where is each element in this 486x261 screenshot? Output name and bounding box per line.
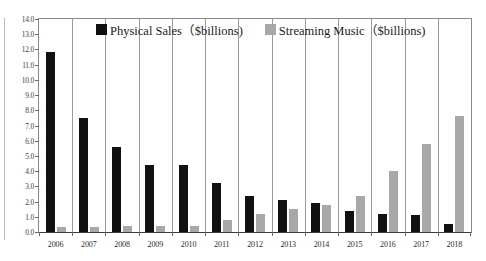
x-axis-label-2011: 2011	[214, 240, 229, 249]
x-axis-label-2016: 2016	[380, 240, 396, 249]
bar-streaming-music-2007	[90, 227, 99, 232]
bar-group	[378, 19, 398, 232]
y-tick-mark	[35, 141, 39, 142]
y-tick-mark	[35, 217, 39, 218]
bar-physical-sales-2018	[444, 224, 453, 232]
y-axis-label: 2.0	[25, 197, 34, 206]
y-axis-label: 13.0	[22, 30, 34, 39]
bar-streaming-music-2011	[223, 220, 232, 232]
bar-physical-sales-2006	[46, 52, 55, 232]
gridline-vertical	[172, 19, 173, 232]
bar-streaming-music-2015	[356, 196, 365, 233]
bar-streaming-music-2013	[289, 209, 298, 232]
gridline-vertical	[139, 19, 140, 232]
bar-streaming-music-2018	[455, 116, 464, 232]
x-axis-label-2017: 2017	[413, 240, 429, 249]
y-tick-mark	[35, 186, 39, 187]
x-axis-label-2015: 2015	[347, 240, 363, 249]
y-axis-label: 4.0	[25, 167, 34, 176]
y-axis-label: 7.0	[25, 121, 34, 130]
y-axis-label: 11.0	[22, 60, 34, 69]
y-axis-label: 5.0	[25, 151, 34, 160]
y-axis-label: 1.0	[25, 212, 34, 221]
bar-group	[278, 19, 298, 232]
x-tick-mark	[371, 232, 372, 236]
bar-group	[245, 19, 265, 232]
bar-physical-sales-2012	[245, 196, 254, 233]
bar-physical-sales-2009	[145, 165, 154, 232]
x-tick-mark	[72, 232, 73, 236]
x-axis-label-2007: 2007	[81, 240, 97, 249]
x-axis-label-2008: 2008	[114, 240, 130, 249]
bar-streaming-music-2017	[422, 144, 431, 232]
x-tick-mark	[338, 232, 339, 236]
y-tick-mark	[35, 49, 39, 50]
y-axis-label: 10.0	[22, 75, 34, 84]
bar-group	[112, 19, 132, 232]
x-axis-label-2012: 2012	[247, 240, 263, 249]
legend-label-physical-sales: Physical Sales（$billions)	[110, 20, 243, 39]
legend-label-streaming-music: Streaming Music（$billions)	[279, 20, 426, 39]
x-axis-label-2009: 2009	[147, 240, 163, 249]
bar-physical-sales-2013	[278, 200, 287, 232]
x-axis-label-2010: 2010	[181, 240, 197, 249]
x-tick-mark	[305, 232, 306, 236]
bar-group	[212, 19, 232, 232]
x-tick-mark	[405, 232, 406, 236]
y-axis-label: 6.0	[25, 136, 34, 145]
figure-edge-line	[4, 18, 5, 240]
bar-streaming-music-2010	[190, 226, 199, 232]
bar-physical-sales-2017	[411, 215, 420, 232]
gridline-vertical	[72, 19, 73, 232]
bar-streaming-music-2008	[123, 226, 132, 232]
y-tick-mark	[35, 19, 39, 20]
gridline-vertical	[238, 19, 239, 232]
x-tick-mark	[438, 232, 439, 236]
y-axis-label: 12.0	[22, 45, 34, 54]
bar-physical-sales-2016	[378, 214, 387, 232]
bar-streaming-music-2006	[57, 227, 66, 232]
x-tick-mark	[172, 232, 173, 236]
bar-group	[79, 19, 99, 232]
y-tick-mark	[35, 34, 39, 35]
x-tick-mark	[470, 232, 471, 236]
y-tick-mark	[35, 171, 39, 172]
legend-swatch-physical-sales	[96, 24, 107, 35]
x-tick-mark	[205, 232, 206, 236]
bar-group	[145, 19, 165, 232]
chart-legend: Physical Sales（$billions) Streaming Musi…	[96, 20, 425, 39]
bar-group	[345, 19, 365, 232]
y-tick-mark	[35, 110, 39, 111]
gridline-vertical	[338, 19, 339, 232]
x-axis-label-2014: 2014	[314, 240, 330, 249]
legend-item-streaming-music: Streaming Music（$billions)	[265, 20, 426, 39]
chart-figure: Physical Sales（$billions) Streaming Musi…	[0, 0, 486, 261]
bar-physical-sales-2014	[311, 203, 320, 232]
x-axis-label-2006: 2006	[48, 240, 64, 249]
bar-group	[411, 19, 431, 232]
y-tick-mark	[35, 156, 39, 157]
x-axis-label-2013: 2013	[280, 240, 296, 249]
gridline-vertical	[305, 19, 306, 232]
bar-group	[311, 19, 331, 232]
plot-area: 0.01.02.03.04.05.06.07.08.09.010.011.012…	[38, 18, 472, 233]
x-tick-mark	[39, 232, 40, 236]
legend-item-physical-sales: Physical Sales（$billions)	[96, 20, 243, 39]
gridline-vertical	[438, 19, 439, 232]
y-tick-mark	[35, 80, 39, 81]
y-axis-label: 14.0	[22, 15, 34, 24]
gridline-vertical	[272, 19, 273, 232]
bar-streaming-music-2014	[322, 205, 331, 232]
legend-swatch-streaming-music	[265, 24, 276, 35]
y-tick-mark	[35, 202, 39, 203]
x-tick-mark	[272, 232, 273, 236]
y-tick-mark	[35, 65, 39, 66]
y-axis-label: 0.0	[25, 228, 34, 237]
bar-group	[179, 19, 199, 232]
gridline-vertical	[405, 19, 406, 232]
x-tick-mark	[238, 232, 239, 236]
x-axis-label-2018: 2018	[447, 240, 463, 249]
bar-physical-sales-2011	[212, 183, 221, 232]
bar-streaming-music-2016	[389, 171, 398, 232]
x-tick-mark	[105, 232, 106, 236]
